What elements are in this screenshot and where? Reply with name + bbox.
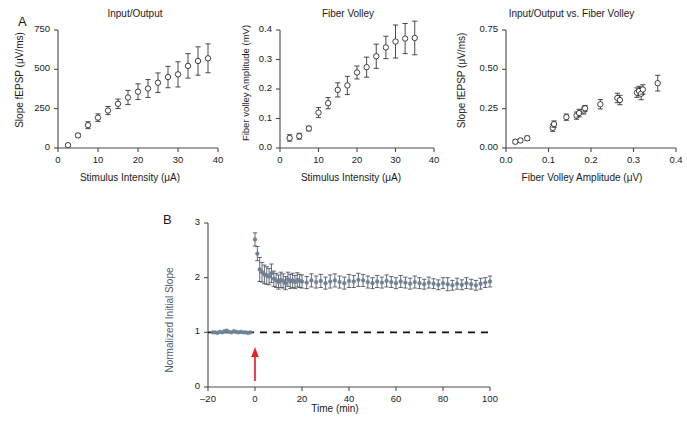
data-point	[297, 133, 302, 139]
data-point	[287, 135, 292, 141]
data-point	[276, 275, 280, 289]
data-point	[125, 90, 130, 104]
tick-label: 0	[42, 154, 74, 165]
data-point	[115, 99, 120, 108]
data-point	[384, 275, 388, 287]
data-point	[325, 98, 330, 109]
tick-label: 80	[427, 393, 459, 404]
tick-label: 0.2	[228, 82, 272, 93]
tick-label: 10	[82, 154, 114, 165]
tick-label: 0	[150, 380, 200, 391]
data-point	[356, 273, 360, 286]
chart-input-output: Input/Output Slope fEPSP (μV/ms) Stimulu…	[0, 0, 230, 195]
tick-label: 100	[474, 393, 506, 404]
data-point	[422, 279, 426, 289]
x-axis-label: Stimulus Intensity (μA)	[45, 172, 215, 183]
data-point	[474, 280, 478, 290]
data-point	[412, 21, 417, 55]
data-point	[402, 24, 407, 54]
tick-label: 0.3	[618, 154, 650, 165]
y-axis-label: Slope fEPSP (μV/ms)	[14, 15, 25, 145]
tick-label: 30	[380, 154, 412, 165]
data-point	[441, 278, 445, 289]
tick-label: 0.1	[533, 154, 565, 165]
data-point	[370, 278, 374, 289]
data-point	[431, 279, 435, 289]
data-point	[513, 139, 518, 144]
data-point	[305, 277, 309, 289]
tick-label: 20	[286, 393, 318, 404]
tick-label: 1	[150, 325, 200, 336]
data-point	[300, 275, 304, 288]
data-point	[417, 278, 421, 289]
data-point	[347, 274, 351, 287]
tick-label: 0.2	[575, 154, 607, 165]
data-point	[165, 66, 170, 87]
tick-label: 250	[0, 102, 50, 113]
x-axis-label: Fiber Volley Amplitude (μV)	[492, 172, 672, 183]
tick-label: 10	[303, 154, 335, 165]
data-point	[518, 138, 523, 143]
chart-io-vs-fiber-volley: Input/Output vs. Fiber Volley Slope fEPS…	[444, 0, 687, 195]
data-point	[335, 83, 340, 97]
data-point	[333, 274, 337, 287]
chart-title: Input/Output vs. Fiber Volley	[464, 8, 679, 19]
x-axis-label: Time (min)	[260, 403, 410, 414]
tick-label: 0	[264, 154, 296, 165]
data-point	[352, 275, 356, 287]
data-point	[446, 278, 450, 291]
tick-label: 20	[341, 154, 373, 165]
data-point	[361, 274, 365, 286]
chart-title: Input/Output	[55, 8, 215, 19]
data-point	[564, 114, 569, 120]
data-point	[478, 278, 482, 289]
chart-title: Fiber Volley	[273, 8, 423, 19]
data-point	[399, 275, 403, 287]
tick-label: 0.3	[228, 53, 272, 64]
data-point	[195, 47, 200, 75]
chart-ltp-time-course: Normalized Initial Slope Time (min) 0123…	[150, 205, 550, 426]
data-point	[342, 277, 346, 289]
data-point	[469, 279, 473, 289]
x-axis-label: Stimulus Intensity (μA)	[266, 172, 436, 183]
data-point	[185, 54, 190, 79]
data-point	[364, 57, 369, 77]
tick-label: 0.75	[444, 23, 498, 34]
data-point	[255, 247, 259, 261]
y-axis-label: Normalized Initial Slope	[164, 240, 175, 400]
tick-label: –20	[192, 393, 224, 404]
data-point	[309, 274, 313, 287]
data-point	[383, 36, 388, 58]
tick-label: 0.00	[444, 141, 498, 152]
data-point	[316, 108, 321, 118]
data-point	[483, 278, 487, 288]
tick-label: 0.4	[228, 23, 272, 34]
data-point	[319, 274, 323, 287]
data-point	[551, 121, 556, 127]
data-point	[345, 76, 350, 94]
data-point	[175, 62, 180, 87]
data-point	[281, 274, 285, 288]
data-point	[354, 66, 359, 79]
data-point	[374, 44, 379, 68]
data-point	[488, 276, 492, 287]
tick-label: 0.0	[228, 141, 272, 152]
data-point	[427, 277, 431, 288]
tick-label: 750	[0, 23, 50, 34]
data-point	[413, 276, 417, 288]
data-point	[248, 330, 252, 334]
tick-label: 0.1	[228, 112, 272, 123]
tick-label: 40	[333, 393, 365, 404]
data-point	[366, 276, 370, 288]
data-point	[582, 106, 587, 112]
data-point	[135, 84, 140, 100]
tick-label: 20	[122, 154, 154, 165]
data-point	[105, 106, 110, 114]
data-point	[598, 100, 603, 109]
stimulus-arrow-icon	[251, 347, 259, 381]
tick-label: 0	[239, 393, 271, 404]
data-point	[65, 142, 70, 147]
tick-label: 2	[150, 271, 200, 282]
data-point	[380, 277, 384, 288]
data-point	[393, 25, 398, 58]
